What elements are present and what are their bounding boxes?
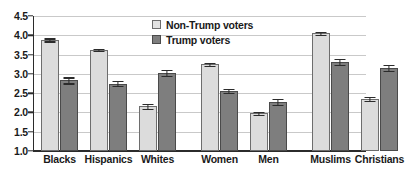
y-tick-label: 4.5	[2, 11, 28, 21]
legend-item: Trump voters	[152, 32, 253, 47]
bar	[331, 62, 349, 151]
error-bar	[269, 99, 287, 105]
error-bar	[41, 38, 59, 41]
y-tick-label: 1.5	[2, 127, 28, 137]
error-bar-cap-top	[113, 81, 124, 82]
error-bar-cap-top	[162, 70, 173, 71]
y-tick-label: 2.0	[2, 107, 28, 117]
error-bar	[380, 65, 398, 71]
bar	[90, 50, 108, 151]
error-bar-cap-bottom	[162, 76, 173, 77]
error-bar-cap-bottom	[384, 71, 395, 72]
legend-swatch-trump-icon	[152, 35, 161, 44]
bar	[158, 73, 176, 151]
error-bar	[220, 89, 238, 94]
error-bar-cap-top	[316, 32, 327, 33]
error-bar-cap-bottom	[205, 66, 216, 67]
error-bar-cap-top	[143, 104, 154, 105]
error-bar	[361, 97, 379, 102]
error-bar	[60, 77, 78, 83]
y-tick-label: 3.5	[2, 50, 28, 60]
bar	[201, 64, 219, 151]
error-bar-cap-top	[365, 97, 376, 98]
error-bar-cap-bottom	[113, 86, 124, 87]
error-bar-cap-bottom	[64, 83, 75, 84]
error-bar-cap-bottom	[143, 109, 154, 110]
y-axis: 4.54.03.53.02.52.01.51.0	[0, 0, 28, 177]
chart-legend: Non-Trump voters Trump voters	[152, 17, 253, 47]
error-bar	[158, 70, 176, 76]
error-bar-cap-top	[205, 63, 216, 64]
error-bar-cap-top	[94, 49, 105, 50]
error-bar-cap-bottom	[45, 41, 56, 42]
error-bar	[90, 49, 108, 51]
y-tick-label: 3.0	[2, 69, 28, 79]
bar	[139, 106, 157, 151]
error-bar-cap-top	[273, 99, 284, 100]
error-bar-cap-bottom	[365, 101, 376, 102]
bar	[220, 91, 238, 151]
bar	[41, 40, 59, 151]
error-bar-cap-bottom	[335, 65, 346, 66]
y-tick-label: 2.5	[2, 88, 28, 98]
bar	[312, 33, 330, 151]
error-bar-cap-top	[45, 38, 56, 39]
bar	[361, 99, 379, 151]
bar	[269, 102, 287, 151]
error-bar-cap-bottom	[94, 51, 105, 52]
bar	[380, 68, 398, 151]
error-bar-cap-top	[224, 89, 235, 90]
error-bar	[139, 104, 157, 109]
error-bar	[250, 112, 268, 115]
bar	[250, 113, 268, 151]
error-bar-cap-bottom	[254, 115, 265, 116]
error-bar-cap-top	[384, 65, 395, 66]
error-bar-cap-top	[335, 59, 346, 60]
error-bar-cap-bottom	[316, 35, 327, 36]
legend-item: Non-Trump voters	[152, 17, 253, 32]
error-bar	[312, 32, 330, 35]
bar	[109, 84, 127, 152]
legend-swatch-non-trump-icon	[152, 20, 161, 29]
error-bar-cap-bottom	[273, 105, 284, 106]
legend-label-non-trump: Non-Trump voters	[166, 19, 253, 31]
bar	[60, 80, 78, 151]
y-tick-label: 4.0	[2, 30, 28, 40]
legend-label-trump: Trump voters	[166, 34, 230, 46]
error-bar-cap-top	[254, 112, 265, 113]
error-bar	[331, 59, 349, 64]
error-bar	[201, 63, 219, 66]
error-bar-cap-top	[64, 77, 75, 78]
x-tick-label: Christians	[340, 153, 409, 165]
error-bar	[109, 81, 127, 86]
error-bar-cap-bottom	[224, 93, 235, 94]
